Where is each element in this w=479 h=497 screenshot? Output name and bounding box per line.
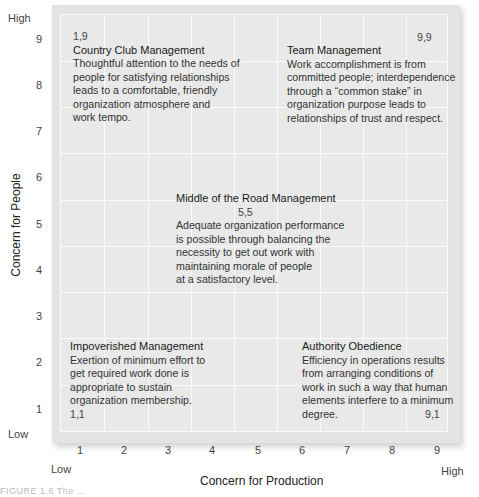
grid-line-h bbox=[61, 153, 447, 154]
description-line: organization membership. bbox=[70, 394, 240, 408]
x-axis-low-label: Low bbox=[51, 463, 71, 475]
y-tick: 1 bbox=[22, 403, 42, 415]
y-tick: 3 bbox=[22, 310, 42, 322]
x-tick: 4 bbox=[202, 444, 222, 456]
description-line: Adequate organization performance bbox=[176, 219, 376, 233]
y-tick: 5 bbox=[22, 218, 42, 230]
coord-label: 1,1 bbox=[70, 408, 240, 422]
description-line: people for satisfying relationships bbox=[73, 71, 323, 85]
description-line: work tempo. bbox=[73, 111, 323, 125]
x-tick: 5 bbox=[248, 444, 268, 456]
description-line: necessity to get out work with bbox=[176, 246, 376, 260]
style-title: Team Management bbox=[287, 44, 462, 58]
grid-line-h bbox=[61, 292, 447, 293]
description-line: Work accomplishment is from bbox=[287, 58, 462, 72]
coord-label: 1,9 bbox=[73, 30, 323, 44]
description-line: Efficiency in operations results bbox=[302, 354, 462, 368]
description-line: work in such a way that human bbox=[302, 381, 462, 395]
coord-label: 5,5 bbox=[176, 206, 376, 220]
description-line: from arranging conditions of bbox=[302, 367, 462, 381]
style-title: Country Club Management bbox=[73, 44, 323, 58]
x-tick: 1 bbox=[70, 444, 90, 456]
description-line: organization atmosphere and bbox=[73, 98, 323, 112]
authority-coord-label: 9,1 bbox=[425, 408, 440, 420]
x-tick: 2 bbox=[114, 444, 134, 456]
description-line: through a “common stake” in bbox=[287, 85, 462, 99]
y-tick: 8 bbox=[22, 79, 42, 91]
figure-caption: FIGURE 1.6 The ... bbox=[0, 486, 86, 496]
grid-line-h bbox=[61, 338, 447, 339]
y-axis-high-label: High bbox=[8, 12, 31, 24]
middle-road-block: Middle of the Road Management 5,5 Adequa… bbox=[176, 192, 376, 287]
description-line: organization purpose leads to bbox=[287, 98, 462, 112]
y-axis-title: Concern for People bbox=[9, 165, 23, 285]
description-line: is possible through balancing the bbox=[176, 233, 376, 247]
y-tick: 9 bbox=[22, 33, 42, 45]
description-line: Exertion of minimum effort to bbox=[70, 354, 240, 368]
description-line: appropriate to sustain bbox=[70, 381, 240, 395]
y-tick: 4 bbox=[22, 264, 42, 276]
x-axis-title: Concern for Production bbox=[200, 474, 323, 488]
x-tick: 9 bbox=[427, 444, 447, 456]
x-tick: 7 bbox=[337, 444, 357, 456]
team-coord-label: 9,9 bbox=[417, 31, 432, 43]
description-line: get required work done is bbox=[70, 367, 240, 381]
impoverished-block: Impoverished Management Exertion of mini… bbox=[70, 340, 240, 421]
style-title: Authority Obedience bbox=[302, 340, 462, 354]
y-axis-low-label: Low bbox=[8, 428, 28, 440]
y-tick: 2 bbox=[22, 356, 42, 368]
description-line: maintaining morale of people bbox=[176, 260, 376, 274]
x-tick: 6 bbox=[292, 444, 312, 456]
description-line: at a satisfactory level. bbox=[176, 273, 376, 287]
description-line: Thoughtful attention to the needs of bbox=[73, 57, 323, 71]
x-tick: 3 bbox=[158, 444, 178, 456]
description-line: leads to a comfortable, friendly bbox=[73, 84, 323, 98]
country-club-block: 1,9 Country Club Management Thoughtful a… bbox=[73, 30, 323, 125]
style-title: Impoverished Management bbox=[70, 340, 240, 354]
y-tick: 6 bbox=[22, 171, 42, 183]
x-tick: 8 bbox=[382, 444, 402, 456]
description-line: committed people; interdependence bbox=[287, 71, 462, 85]
description-line: relationships of trust and respect. bbox=[287, 112, 462, 126]
team-management-block: Team Management Work accomplishment is f… bbox=[287, 44, 462, 125]
description-line: elements interfere to a minimum bbox=[302, 394, 462, 408]
x-axis-high-label: High bbox=[441, 465, 464, 477]
y-tick: 7 bbox=[22, 125, 42, 137]
style-title: Middle of the Road Management bbox=[176, 192, 376, 206]
